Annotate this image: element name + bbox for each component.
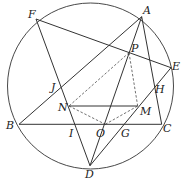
dashed-segments	[69, 53, 138, 125]
point-label-B: B	[5, 119, 14, 132]
point-label-F: F	[27, 8, 36, 21]
point-labels: ABCDEFPNMOGIJH	[5, 4, 180, 181]
segment-FE	[36, 19, 171, 68]
circumcircle	[8, 3, 174, 169]
point-label-A: A	[142, 4, 151, 17]
segment-PM	[129, 53, 138, 106]
segment-FD	[36, 19, 90, 166]
point-label-J: J	[49, 81, 56, 94]
point-label-I: I	[68, 127, 74, 140]
solid-segments	[19, 17, 171, 166]
segment-NO	[69, 106, 105, 124]
point-label-M: M	[139, 105, 152, 118]
point-label-H: H	[154, 83, 165, 96]
point-label-O: O	[96, 127, 105, 140]
point-label-N: N	[57, 101, 68, 114]
point-label-D: D	[84, 168, 94, 181]
point-label-C: C	[163, 122, 172, 135]
point-label-P: P	[130, 42, 139, 55]
geometry-diagram: ABCDEFPNMOGIJH	[0, 0, 182, 188]
point-label-G: G	[121, 127, 130, 140]
point-label-E: E	[171, 60, 180, 73]
